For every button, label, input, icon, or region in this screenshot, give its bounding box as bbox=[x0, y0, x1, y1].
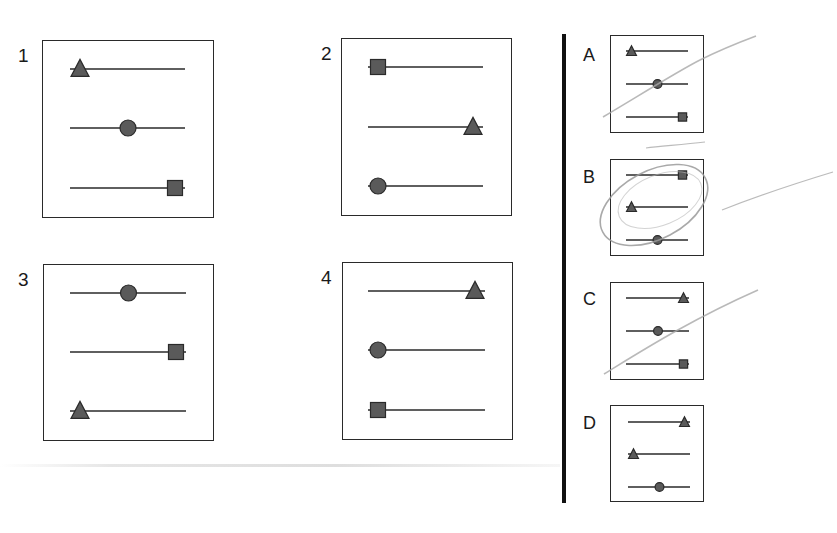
panel-4-row-1-triangle-icon bbox=[466, 281, 484, 298]
option-a-row-2-circle-icon bbox=[653, 80, 662, 89]
panel-2-row-1-square-icon bbox=[371, 60, 386, 75]
figure-lines-and-markers bbox=[0, 0, 837, 533]
panel-2-row-3-circle-icon bbox=[370, 178, 386, 194]
panel-3-row-3-triangle-icon bbox=[71, 401, 89, 418]
option-a-row-3-square-icon bbox=[678, 113, 686, 121]
panel-1-row-3-square-icon bbox=[168, 181, 183, 196]
panel-1-row-2-circle-icon bbox=[120, 120, 136, 136]
option-b-row-3-circle-icon bbox=[653, 236, 662, 245]
option-c-row-3-square-icon bbox=[679, 360, 687, 368]
panel-1-row-1-triangle-icon bbox=[71, 59, 89, 76]
option-b-row-1-square-icon bbox=[678, 171, 686, 179]
panel-3-row-2-square-icon bbox=[169, 345, 184, 360]
panel-3-row-1-circle-icon bbox=[121, 285, 137, 301]
panel-4-row-2-circle-icon bbox=[370, 342, 386, 358]
option-c-row-2-circle-icon bbox=[654, 327, 663, 336]
panel-4-row-3-square-icon bbox=[371, 403, 386, 418]
panel-2-row-2-triangle-icon bbox=[464, 117, 482, 134]
option-d-row-3-circle-icon bbox=[655, 483, 664, 492]
